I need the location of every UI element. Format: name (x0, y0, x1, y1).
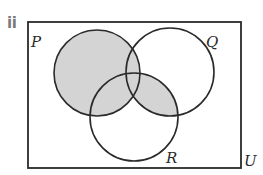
set-r-label: R (165, 149, 177, 167)
venn-diagram: P Q R U (0, 0, 263, 175)
set-q-label: Q (206, 33, 218, 51)
universe-label: U (244, 152, 258, 170)
set-p-label: P (30, 33, 42, 51)
shaded-region (54, 30, 178, 161)
